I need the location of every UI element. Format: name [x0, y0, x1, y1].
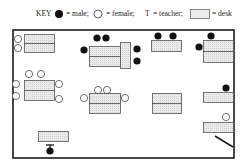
female-student-icon — [12, 92, 19, 99]
female-student-icon — [25, 70, 32, 77]
male-student-icon — [102, 34, 109, 41]
male-student-icon — [195, 43, 202, 50]
male-student-icon — [222, 84, 229, 91]
desk — [90, 94, 121, 104]
desk — [204, 52, 234, 63]
male-student-icon — [80, 46, 87, 53]
female-student-icon — [103, 86, 110, 93]
male-student-icon — [207, 32, 214, 39]
male-student-icon — [133, 45, 140, 52]
teacher-icon — [46, 147, 53, 154]
desk — [25, 44, 55, 53]
door-icon — [215, 136, 233, 147]
desk — [90, 104, 121, 114]
desk — [90, 47, 121, 57]
female-student-icon — [94, 86, 101, 93]
female-student-icon — [222, 113, 229, 120]
desk — [153, 94, 182, 104]
desk — [25, 81, 55, 91]
male-student-icon — [133, 57, 140, 64]
male-student-icon — [169, 32, 176, 39]
female-student-icon — [55, 80, 62, 87]
desk — [152, 41, 182, 52]
desk — [204, 41, 234, 52]
desks-layer — [25, 35, 234, 142]
female-student-icon — [80, 94, 87, 101]
desk — [121, 43, 131, 69]
desk — [25, 35, 55, 44]
female-student-icon — [55, 95, 62, 102]
classroom-floorplan — [0, 0, 248, 167]
teacher-layer — [46, 145, 54, 155]
male-student-icon — [93, 34, 100, 41]
female-student-icon — [14, 44, 21, 51]
desk — [90, 57, 121, 67]
desk — [153, 104, 182, 114]
desk — [25, 91, 55, 101]
desk — [204, 123, 234, 133]
desk — [204, 93, 234, 103]
female-student-icon — [37, 70, 44, 77]
classroom-diagram — [0, 0, 248, 167]
female-student-icon — [121, 94, 128, 101]
male-student-icon — [154, 32, 161, 39]
female-student-icon — [14, 35, 21, 42]
desk — [39, 132, 69, 142]
female-student-icon — [12, 80, 19, 87]
